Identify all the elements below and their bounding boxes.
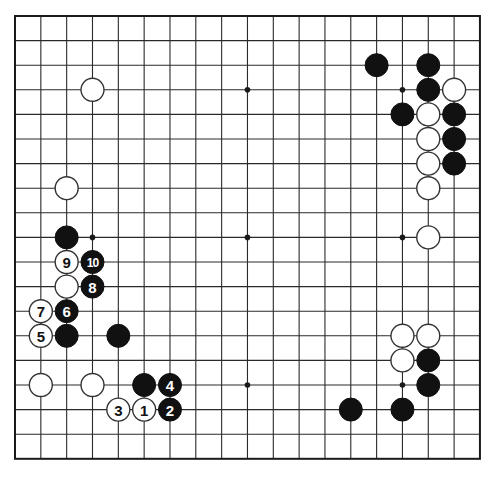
- move-number: 7: [37, 303, 45, 320]
- black-stone: [417, 349, 440, 372]
- move-number: 1: [140, 402, 148, 419]
- white-stone-icon: [391, 324, 414, 347]
- black-stone-icon: [417, 78, 440, 101]
- black-stone-icon: [55, 324, 78, 347]
- black-stone: [391, 103, 414, 126]
- black-stone-icon: [443, 152, 466, 175]
- black-stone: [417, 78, 440, 101]
- black-stone-icon: [443, 128, 466, 151]
- white-stone: [417, 128, 440, 151]
- go-board: 91087654312: [0, 0, 498, 479]
- white-stone-icon: [443, 78, 466, 101]
- white-stone-move-1: 1: [133, 398, 156, 421]
- move-number: 5: [37, 328, 45, 345]
- move-number: 2: [166, 402, 174, 419]
- black-stone: [365, 54, 388, 77]
- black-stone-icon: [391, 398, 414, 421]
- black-stone: [133, 374, 156, 397]
- black-stone-icon: [55, 226, 78, 249]
- star-point: [245, 87, 251, 93]
- star-point: [400, 382, 406, 388]
- black-stone: [55, 226, 78, 249]
- black-stone: [443, 103, 466, 126]
- black-stone-icon: [365, 54, 388, 77]
- white-stone: [391, 324, 414, 347]
- white-stone-icon: [391, 349, 414, 372]
- black-stone: [339, 398, 362, 421]
- move-number: 9: [62, 254, 70, 271]
- go-board-diagram: 91087654312: [0, 0, 498, 479]
- white-stone-icon: [81, 78, 104, 101]
- black-stone-icon: [443, 103, 466, 126]
- white-stone: [417, 177, 440, 200]
- white-stone-icon: [55, 275, 78, 298]
- white-stone-icon: [417, 226, 440, 249]
- black-stone: [107, 324, 130, 347]
- black-stone: [443, 128, 466, 151]
- black-stone: [417, 54, 440, 77]
- black-stone-icon: [133, 374, 156, 397]
- white-stone: [443, 78, 466, 101]
- black-stone: [443, 152, 466, 175]
- white-stone-icon: [29, 374, 52, 397]
- star-point: [400, 235, 406, 241]
- white-stone-icon: [81, 374, 104, 397]
- white-stone-icon: [417, 324, 440, 347]
- white-stone: [417, 152, 440, 175]
- black-stone: [55, 324, 78, 347]
- white-stone-icon: [55, 177, 78, 200]
- white-stone: [55, 177, 78, 200]
- black-stone-move-4: 4: [158, 374, 181, 397]
- star-point: [400, 87, 406, 93]
- white-stone: [55, 275, 78, 298]
- black-stone: [417, 374, 440, 397]
- move-number: 4: [166, 377, 175, 394]
- white-stone-move-9: 9: [55, 251, 78, 274]
- black-stone-icon: [107, 324, 130, 347]
- white-stone: [391, 349, 414, 372]
- white-stone-icon: [417, 128, 440, 151]
- white-stone: [81, 374, 104, 397]
- move-number: 10: [87, 256, 100, 270]
- white-stone-icon: [417, 103, 440, 126]
- move-number: 3: [114, 402, 122, 419]
- white-stone-move-7: 7: [29, 300, 52, 323]
- black-stone-icon: [391, 103, 414, 126]
- white-stone: [417, 226, 440, 249]
- white-stone: [417, 324, 440, 347]
- white-stone-move-3: 3: [107, 398, 130, 421]
- move-number: 6: [62, 303, 70, 320]
- black-stone-move-8: 8: [81, 275, 104, 298]
- star-point: [90, 235, 96, 241]
- black-stone-icon: [339, 398, 362, 421]
- white-stone: [417, 103, 440, 126]
- black-stone-move-10: 10: [81, 251, 104, 274]
- black-stone-icon: [417, 374, 440, 397]
- black-stone-move-6: 6: [55, 300, 78, 323]
- white-stone: [81, 78, 104, 101]
- black-stone-icon: [417, 349, 440, 372]
- white-stone-icon: [417, 177, 440, 200]
- white-stone-move-5: 5: [29, 324, 52, 347]
- star-point: [245, 235, 251, 241]
- white-stone: [29, 374, 52, 397]
- white-stone-icon: [417, 152, 440, 175]
- black-stone: [391, 398, 414, 421]
- move-number: 8: [88, 279, 96, 296]
- star-point: [245, 382, 251, 388]
- black-stone-icon: [417, 54, 440, 77]
- black-stone-move-2: 2: [158, 398, 181, 421]
